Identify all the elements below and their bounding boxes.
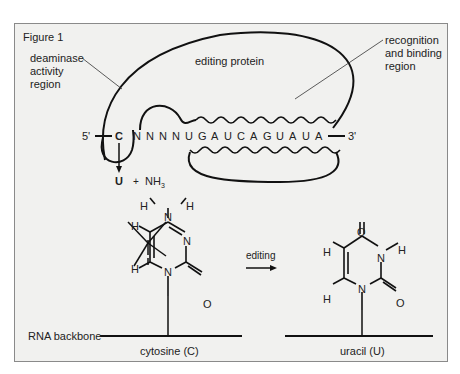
svg-text:N: N bbox=[377, 252, 385, 264]
svg-text:U: U bbox=[276, 130, 284, 142]
svg-text:H: H bbox=[186, 200, 194, 212]
svg-text:N: N bbox=[164, 211, 172, 223]
cytosine-atoms: H H N N O N H H bbox=[131, 200, 212, 310]
recognition-label: recognition and binding region bbox=[385, 34, 445, 72]
svg-text:A: A bbox=[289, 130, 297, 142]
editing-arrowhead-icon bbox=[270, 265, 277, 271]
svg-text:N: N bbox=[358, 283, 366, 295]
rna-sequence: N N N N U G A U C A G U A U A bbox=[133, 130, 323, 142]
svg-text:N: N bbox=[133, 130, 141, 142]
arrowhead-icon bbox=[116, 166, 122, 173]
svg-text:N: N bbox=[164, 266, 172, 278]
ammonia-label: NH3 bbox=[145, 175, 165, 189]
svg-text:O: O bbox=[203, 298, 212, 310]
svg-text:A: A bbox=[211, 130, 219, 142]
svg-text:H: H bbox=[140, 200, 148, 212]
rna-editing-diagram: Figure 1 deaminase activity region editi… bbox=[0, 0, 460, 374]
svg-text:N: N bbox=[183, 235, 191, 247]
svg-text:A: A bbox=[315, 130, 323, 142]
svg-text:H: H bbox=[131, 220, 139, 232]
uracil-label: uracil (U) bbox=[340, 345, 385, 357]
svg-text:U: U bbox=[302, 130, 310, 142]
wavy-binding-top bbox=[196, 117, 336, 123]
svg-text:O: O bbox=[396, 297, 405, 309]
cytosine-label: cytosine (C) bbox=[140, 345, 199, 357]
svg-text:N: N bbox=[159, 130, 167, 142]
svg-text:H: H bbox=[131, 263, 139, 275]
svg-text:U: U bbox=[224, 130, 232, 142]
svg-text:C: C bbox=[237, 130, 245, 142]
svg-text:N: N bbox=[172, 130, 180, 142]
figure-title: Figure 1 bbox=[23, 31, 63, 43]
svg-text:O: O bbox=[357, 226, 366, 238]
svg-text:G: G bbox=[198, 130, 207, 142]
plus-sign: + bbox=[133, 176, 139, 187]
editing-protein-label: editing protein bbox=[195, 55, 264, 67]
svg-text:N: N bbox=[146, 130, 154, 142]
svg-text:G: G bbox=[263, 130, 272, 142]
svg-text:A: A bbox=[250, 130, 258, 142]
svg-text:H: H bbox=[398, 244, 406, 256]
svg-text:H: H bbox=[323, 293, 331, 305]
recognition-pointer bbox=[295, 40, 383, 99]
wavy-binding-bottom bbox=[190, 147, 340, 153]
edited-base-c: C bbox=[115, 130, 123, 142]
five-prime-label: 5' bbox=[82, 130, 90, 142]
svg-text:U: U bbox=[185, 130, 193, 142]
three-prime-label: 3' bbox=[348, 130, 356, 142]
editing-arrow-label: editing bbox=[246, 250, 275, 261]
svg-text:H: H bbox=[323, 246, 331, 258]
deaminase-pointer bbox=[82, 58, 122, 89]
rna-backbone-label: RNA backbone bbox=[28, 330, 101, 342]
deaminase-label: deaminase activity region bbox=[30, 52, 87, 90]
product-base-u: U bbox=[115, 175, 123, 187]
